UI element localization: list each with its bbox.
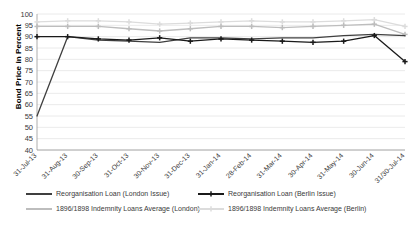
x-axis-tick-label: 31-May-14 bbox=[316, 152, 345, 181]
y-axis-tick-label: 65 bbox=[25, 89, 33, 98]
x-axis-tick-label: 30-Jun-14 bbox=[348, 152, 375, 179]
data-point-marker bbox=[208, 191, 213, 196]
data-point-marker bbox=[310, 24, 315, 29]
legend-item-label: Reorganisation Loan (London Issue) bbox=[56, 189, 169, 198]
data-point-marker bbox=[402, 24, 407, 29]
y-axis-tick-label: 80 bbox=[25, 55, 33, 64]
y-axis-tick-label: 95 bbox=[25, 21, 33, 30]
legend-swatch-icon bbox=[26, 204, 52, 213]
data-point-marker bbox=[341, 39, 346, 44]
legend-swatch-icon bbox=[198, 204, 224, 213]
data-point-marker bbox=[310, 19, 315, 24]
y-axis-tick-label: 55 bbox=[25, 112, 33, 121]
data-point-marker bbox=[218, 24, 223, 29]
y-axis-tick-label: 75 bbox=[25, 66, 33, 75]
legend-item-label: Reorganisation Loan (Berlin Issue) bbox=[228, 189, 336, 198]
y-axis-tick-label: 85 bbox=[25, 44, 33, 53]
data-point-marker bbox=[157, 35, 162, 40]
data-point-marker bbox=[96, 24, 101, 29]
data-point-marker bbox=[188, 26, 193, 31]
legend-swatch-icon bbox=[198, 189, 224, 198]
data-point-marker bbox=[157, 28, 162, 33]
data-point-marker bbox=[372, 22, 377, 27]
data-point-marker bbox=[65, 24, 70, 29]
data-point-marker bbox=[280, 19, 285, 24]
x-axis-tick-label: 28-Feb-14 bbox=[225, 152, 253, 180]
data-point-marker bbox=[34, 19, 39, 24]
data-point-marker bbox=[372, 17, 377, 22]
data-point-marker bbox=[341, 23, 346, 28]
data-point-marker bbox=[402, 32, 407, 37]
x-axis-tick-label: 31-Jan-14 bbox=[194, 152, 221, 179]
x-axis-tick-label: 31-Jul-13 bbox=[12, 152, 38, 178]
legend-swatch-icon bbox=[26, 189, 52, 198]
data-point-marker bbox=[310, 40, 315, 45]
y-axis-tick-label: 90 bbox=[25, 32, 33, 41]
legend-item[interactable]: 1896/1898 Indemnity Loans Average (Londo… bbox=[26, 204, 198, 213]
plot-area: 10095908580757065605550454031-Jul-1331-A… bbox=[0, 0, 412, 185]
data-point-marker bbox=[34, 24, 39, 29]
data-point-marker bbox=[280, 25, 285, 30]
data-point-marker bbox=[96, 18, 101, 23]
legend-item[interactable]: Reorganisation Loan (London Issue) bbox=[26, 189, 198, 198]
legend-item[interactable]: Reorganisation Loan (Berlin Issue) bbox=[198, 189, 406, 198]
data-point-marker bbox=[280, 39, 285, 44]
y-axis-tick-label: 70 bbox=[25, 78, 33, 87]
legend-item-label: 1896/1898 Indemnity Loans Average (Londo… bbox=[56, 204, 200, 213]
data-point-marker bbox=[208, 206, 213, 211]
x-axis-tick-label: 31-Mar-14 bbox=[255, 152, 283, 180]
x-axis-tick-label: 31-Oct-13 bbox=[103, 152, 130, 179]
x-axis-tick-label: 30-Sep-13 bbox=[71, 152, 100, 181]
x-axis-tick-label: 31-Dec-13 bbox=[163, 152, 191, 180]
data-point-marker bbox=[65, 34, 70, 39]
x-axis-tick-label: 30-Apr-14 bbox=[287, 152, 315, 180]
y-axis-tick-label: 60 bbox=[25, 100, 33, 109]
data-point-marker bbox=[188, 20, 193, 25]
data-point-marker bbox=[341, 18, 346, 23]
y-axis-tick-label: 45 bbox=[25, 134, 33, 143]
data-point-marker bbox=[249, 24, 254, 29]
y-axis-tick-label: 50 bbox=[25, 123, 33, 132]
y-axis-tick-label: 100 bbox=[20, 10, 33, 19]
data-point-marker bbox=[218, 19, 223, 24]
x-axis-tick-label: 30-Nov-13 bbox=[132, 152, 160, 180]
data-point-marker bbox=[34, 34, 39, 39]
data-point-marker bbox=[126, 19, 131, 24]
series-line bbox=[37, 34, 405, 116]
x-axis-tick-label: 31/30-Jul-14 bbox=[373, 152, 406, 185]
data-point-marker bbox=[65, 18, 70, 23]
data-point-marker bbox=[188, 39, 193, 44]
x-axis-tick-label: 31-Aug-13 bbox=[40, 152, 69, 181]
legend-item-label: 1896/1898 Indemnity Loans Average (Berli… bbox=[228, 204, 366, 213]
line-chart: Bond Price in Percent 100959085807570656… bbox=[0, 0, 412, 227]
data-point-marker bbox=[126, 26, 131, 31]
data-point-marker bbox=[157, 22, 162, 27]
data-point-marker bbox=[218, 36, 223, 41]
data-point-marker bbox=[249, 18, 254, 23]
legend-item[interactable]: 1896/1898 Indemnity Loans Average (Berli… bbox=[198, 204, 406, 213]
chart-legend: Reorganisation Loan (London Issue)Reorga… bbox=[26, 186, 406, 216]
